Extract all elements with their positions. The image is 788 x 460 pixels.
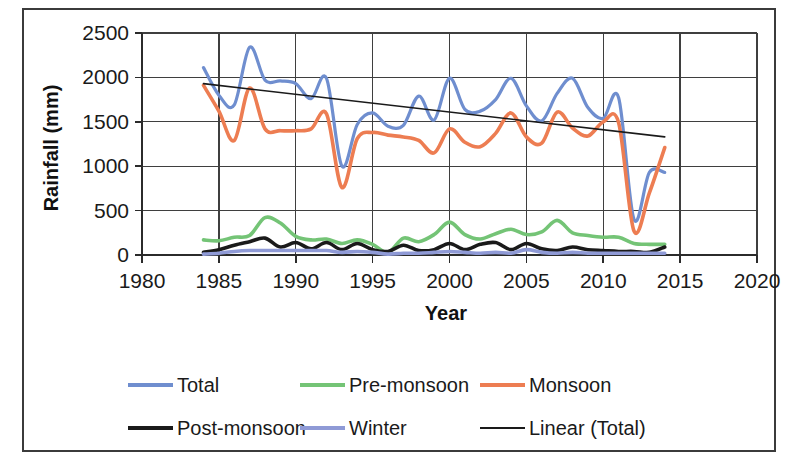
legend-item: Winter (300, 417, 407, 439)
y-axis-title: Rainfall (mm) (40, 85, 62, 212)
y-axis-tick-label: 1000 (82, 154, 129, 177)
x-axis-tick-label: 2020 (734, 269, 781, 292)
legend-item: Pre-monsoon (300, 374, 469, 396)
trendline-linear-total (204, 84, 665, 137)
x-axis-tick-label: 2010 (580, 269, 627, 292)
trendline (204, 84, 665, 137)
series-line-pre-monsoon (204, 217, 665, 252)
legend-item: Post-monsoon (128, 417, 306, 439)
y-axis-tick-label: 0 (117, 243, 129, 266)
x-axis-tick-label: 2015 (657, 269, 704, 292)
y-axis-tick-label: 1500 (82, 110, 129, 133)
legend-label-total: Total (177, 374, 219, 396)
legend-label-linear-total-: Linear (Total) (529, 417, 646, 439)
x-axis-tick-label: 2000 (426, 269, 473, 292)
legend-label-monsoon: Monsoon (529, 374, 611, 396)
legend-item: Monsoon (480, 374, 611, 396)
y-axis-tick-label: 2000 (82, 65, 129, 88)
x-axis-title: Year (425, 302, 467, 324)
rainfall-line-chart: 05001000150020002500 1980198519901995200… (0, 0, 788, 460)
x-axis-tick-label: 1995 (349, 269, 396, 292)
chart-legend: TotalPre-monsoonMonsoonPost-monsoonWinte… (128, 374, 646, 439)
x-axis-tick-label: 1990 (272, 269, 319, 292)
legend-item: Total (128, 374, 219, 396)
chart-figure: 05001000150020002500 1980198519901995200… (0, 0, 788, 460)
x-axis-tick-label: 2005 (503, 269, 550, 292)
legend-item: Linear (Total) (480, 417, 646, 439)
y-axis-tick-label: 500 (94, 199, 129, 222)
x-axis-tick-label: 1985 (196, 269, 243, 292)
legend-label-post-monsoon: Post-monsoon (177, 417, 306, 439)
y-axis-tick-labels: 05001000150020002500 (82, 21, 129, 266)
y-axis-tick-label: 2500 (82, 21, 129, 44)
legend-label-winter: Winter (349, 417, 407, 439)
legend-label-pre-monsoon: Pre-monsoon (349, 374, 469, 396)
x-axis-tick-label: 1980 (119, 269, 166, 292)
x-axis-tick-labels: 198019851990199520002005201020152020 (119, 269, 781, 292)
